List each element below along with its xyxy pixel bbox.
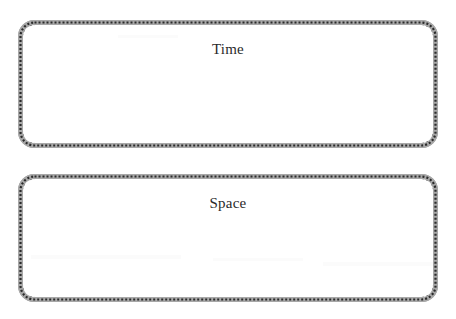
space-box[interactable]: Space [18,174,438,302]
time-box[interactable]: Time [18,20,438,148]
time-box-writing-area[interactable]: Time [23,25,433,143]
paper-artifact [118,35,178,38]
paper-artifact [323,262,433,266]
space-box-label: Space [23,196,433,211]
paper-artifact [31,255,181,259]
time-box-label: Time [23,42,433,57]
worksheet-page: Time Space [0,0,456,319]
paper-artifact [213,258,303,261]
space-box-writing-area[interactable]: Space [23,179,433,297]
